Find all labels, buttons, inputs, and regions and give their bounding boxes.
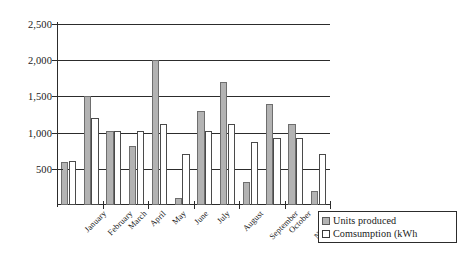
bar-units-produced: [106, 131, 113, 205]
bar-units-produced: [311, 191, 318, 205]
plot-area: [57, 24, 330, 205]
x-axis-labels: JanuaryFebruaryMarchAprilMayJuneJulyAugu…: [57, 207, 330, 265]
x-tick-label-may: May: [170, 209, 187, 226]
x-tick-label-july: July: [215, 209, 232, 226]
bar-comsumption: [114, 131, 121, 205]
bar-units-produced: [84, 96, 91, 205]
bar-comsumption: [182, 154, 189, 205]
bar-group: [285, 24, 308, 205]
y-tick-2500: [52, 24, 63, 25]
bar-units-produced: [129, 146, 136, 205]
y-tick-label-2000: 2,000: [0, 55, 52, 66]
legend-swatch-comsumption: [322, 230, 330, 238]
bar-units-produced: [175, 198, 182, 205]
legend-label-comsumption: Comsumption (kWh: [333, 228, 417, 239]
y-tick-label-500: 500: [0, 163, 52, 174]
legend-item-comsumption: Comsumption (kWh: [322, 227, 453, 240]
bar-comsumption: [137, 131, 144, 205]
y-tick-1000: [52, 133, 63, 134]
bar-comsumption: [69, 161, 76, 205]
bar-units-produced: [152, 60, 159, 205]
legend-label-units-produced: Units produced: [333, 215, 396, 226]
x-tick: [330, 201, 331, 209]
bar-comsumption: [228, 124, 235, 205]
bar-group: [307, 24, 330, 205]
bar-comsumption: [91, 118, 98, 205]
bar-comsumption: [319, 154, 326, 205]
bar-group: [80, 24, 103, 205]
bar-group: [239, 24, 262, 205]
bar-group: [125, 24, 148, 205]
bar-units-produced: [220, 82, 227, 205]
legend-item-units-produced: Units produced: [322, 214, 453, 227]
bar-group: [57, 24, 80, 205]
y-tick-500: [52, 169, 63, 170]
bar-units-produced: [288, 124, 295, 205]
bar-units-produced: [243, 182, 250, 205]
y-tick-label-1000: 1,000: [0, 127, 52, 138]
legend-swatch-units-produced: [322, 217, 330, 225]
bar-comsumption: [296, 138, 303, 205]
x-tick-label-april: April: [148, 209, 167, 228]
x-tick-label-june: June: [193, 209, 211, 227]
bar-units-produced: [197, 111, 204, 205]
bar-comsumption: [160, 124, 167, 205]
y-axis-labels: 5001,0001,5002,0002,500: [0, 0, 52, 265]
bar-group: [148, 24, 171, 205]
x-tick-label-january: January: [83, 209, 108, 234]
y-tick-label-2500: 2,500: [0, 19, 52, 30]
bar-group: [262, 24, 285, 205]
bar-groups: [57, 24, 330, 205]
x-tick-label-august: August: [241, 209, 265, 233]
bar-group: [103, 24, 126, 205]
bar-group: [216, 24, 239, 205]
chart-legend: Units produced Comsumption (kWh: [318, 211, 457, 243]
bar-comsumption: [251, 142, 258, 205]
bar-group: [171, 24, 194, 205]
bar-units-produced: [266, 104, 273, 205]
bar-comsumption: [205, 131, 212, 205]
y-tick-1500: [52, 96, 63, 97]
bar-comsumption: [273, 138, 280, 205]
y-tick-2000: [52, 60, 63, 61]
y-tick-label-1500: 1,500: [0, 91, 52, 102]
bar-group: [194, 24, 217, 205]
